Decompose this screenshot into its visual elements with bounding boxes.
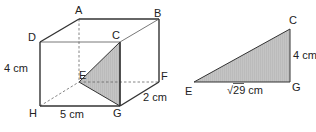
label-triangle-vertex-e: E: [185, 85, 192, 97]
cuboid-diagram: A B C D E F G H 4 cm 5 cm 2 cm: [4, 4, 168, 120]
label-vertex-h: H: [29, 107, 37, 119]
label-triangle-vertex-g: G: [292, 81, 301, 93]
label-side-eg: √29 cm: [227, 84, 263, 96]
edge-da: [40, 19, 79, 42]
label-side-gc: 4 cm: [293, 49, 316, 61]
label-vertex-a: A: [75, 4, 83, 16]
label-vertex-f: F: [161, 70, 168, 82]
label-triangle-vertex-c: C: [289, 14, 297, 26]
label-vertex-g: G: [113, 107, 122, 119]
label-width: 2 cm: [143, 91, 167, 103]
hidden-edge-he: [40, 82, 79, 106]
edge-cb: [120, 19, 159, 42]
geometry-figure: A B C D E F G H 4 cm 5 cm 2 cm E G C 4 c…: [0, 0, 316, 132]
label-vertex-d: D: [28, 31, 36, 43]
label-vertex-c: C: [112, 29, 120, 41]
label-height: 4 cm: [4, 62, 28, 74]
label-vertex-e: E: [79, 69, 86, 81]
triangle-egc: [194, 29, 290, 82]
triangle-diagram: E G C 4 cm √29 cm: [185, 14, 316, 97]
label-vertex-b: B: [154, 7, 161, 19]
label-length: 5 cm: [60, 108, 84, 120]
